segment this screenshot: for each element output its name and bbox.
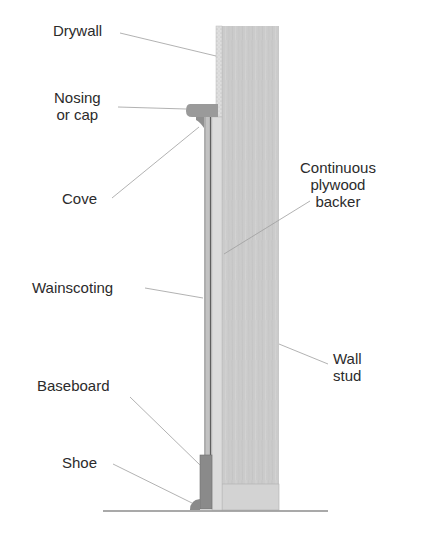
leader-shoe (113, 464, 192, 503)
plywood-backer (212, 117, 222, 510)
label-stud-line2: stud (333, 367, 362, 384)
label-nosing-line1: Nosing (54, 89, 101, 106)
wainscoting-panel (204, 117, 212, 455)
leader-drywall (120, 33, 216, 56)
label-backer-line1: Continuous (300, 159, 376, 176)
label-wall-stud: Wall stud (333, 350, 362, 384)
leader-cove (112, 127, 199, 198)
label-nosing-line2: or cap (54, 106, 101, 123)
label-shoe: Shoe (62, 454, 97, 471)
leader-stud (279, 344, 328, 364)
wall-stud (222, 26, 279, 510)
label-plywood-backer: Continuous plywood backer (300, 159, 376, 210)
nosing-cap (186, 104, 218, 117)
baseboard (200, 455, 212, 509)
shoe-molding (190, 499, 200, 510)
cove-molding (196, 117, 204, 128)
label-baseboard: Baseboard (37, 377, 110, 394)
leader-baseboard (130, 397, 200, 465)
label-cove: Cove (62, 190, 97, 207)
leader-wainscoting (145, 288, 203, 298)
label-nosing: Nosing or cap (54, 89, 101, 123)
label-backer-line3: backer (300, 193, 376, 210)
label-backer-line2: plywood (300, 176, 376, 193)
label-stud-line1: Wall (333, 350, 362, 367)
label-drywall: Drywall (53, 22, 102, 39)
label-wainscoting: Wainscoting (32, 279, 113, 296)
drywall (216, 26, 222, 117)
leader-nosing (118, 107, 186, 109)
